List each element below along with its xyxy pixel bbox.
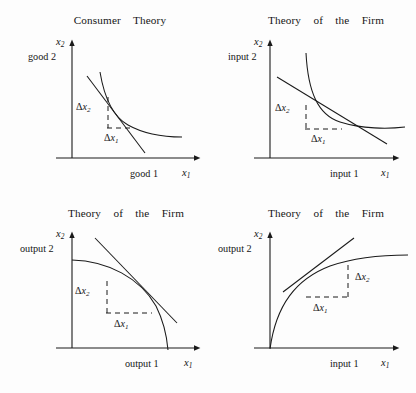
figure-vector-layer <box>0 0 416 393</box>
panel-3-x-axis-label: output 1 <box>125 359 159 369</box>
panel-1-title: Consumer Theory <box>58 15 182 26</box>
panel-1-x-axis-symbol: x1 <box>182 168 190 179</box>
panel-1-delta-x1-label: Δx1 <box>104 133 118 145</box>
panel-1-x-axis-label: good 1 <box>130 169 158 179</box>
panel-2-x-axis-symbol: x1 <box>381 168 389 179</box>
panel-3-y-axis-symbol: x2 <box>56 229 64 240</box>
p4-production-function-curve <box>270 255 408 349</box>
panel-1-delta-x2-label: Δx2 <box>76 102 90 114</box>
panel-1-y-axis-symbol: x2 <box>56 37 64 48</box>
p4-isoprofit-line <box>283 238 354 292</box>
panel-3-title: Theory of the Firm <box>58 208 194 219</box>
p3-ppf-curve <box>72 260 168 350</box>
panel-3-delta-x2-label: Δx2 <box>75 286 89 298</box>
panel-3-y-axis-label: output 2 <box>20 244 54 254</box>
panel-4-y-axis-label: output 2 <box>218 244 252 254</box>
panel-2-y-axis-label: input 2 <box>228 52 257 62</box>
panel-3-x-axis-symbol: x1 <box>184 358 192 369</box>
economics-figure: Consumer Theory x2 good 2 good 1 x1 Δx2 … <box>0 0 416 393</box>
panel-4-delta-x2-label: Δx2 <box>355 272 369 284</box>
p2-isoquant-curve <box>306 53 405 128</box>
panel-4-title: Theory of the Firm <box>258 208 394 219</box>
panel-1-y-axis-label: good 2 <box>28 52 56 62</box>
panel-2-delta-x2-label: Δx2 <box>275 103 289 115</box>
panel-2-y-axis-symbol: x2 <box>254 37 262 48</box>
panel-4-y-axis-symbol: x2 <box>254 229 262 240</box>
panel-firm-production-function-graphics <box>254 238 408 349</box>
panel-4-x-axis-label: input 1 <box>330 359 359 369</box>
panel-2-delta-x1-label: Δx1 <box>311 134 325 146</box>
p2-isocost-line <box>277 77 387 144</box>
p1-indifference-curve <box>100 72 182 137</box>
panel-4-x-axis-symbol: x1 <box>381 358 389 369</box>
panel-2-title: Theory of the Firm <box>258 15 394 26</box>
panel-4-delta-x1-label: Δx1 <box>313 303 327 315</box>
panel-2-x-axis-label: input 1 <box>330 169 359 179</box>
panel-3-delta-x1-label: Δx1 <box>114 319 128 331</box>
